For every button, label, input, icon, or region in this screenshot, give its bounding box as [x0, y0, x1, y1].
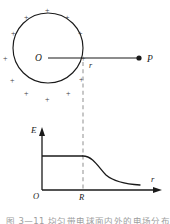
point-label-p: P	[146, 54, 153, 64]
charge-plus-icon: +	[66, 89, 71, 98]
charge-plus-icon: +	[45, 95, 50, 104]
charge-plus-icon: +	[11, 29, 16, 38]
charge-plus-icon: +	[45, 6, 50, 15]
figure-caption-clipped: 图 3—11 均匀带电球面内外的电场分布	[0, 217, 170, 224]
point-p-marker	[136, 55, 141, 60]
x-axis-arrowhead	[153, 187, 162, 193]
figure-caption-text: 图 3—11 均匀带电球面内外的电场分布	[6, 217, 170, 224]
charged-sphere-outline	[13, 13, 83, 83]
surface-charge-symbols: + + + + + + + + + + + +	[3, 6, 86, 104]
graph-origin-label-o: O	[33, 191, 39, 201]
charge-plus-icon: +	[3, 54, 8, 63]
sphere-diagram: O r P + + + + + + + + + + + +	[3, 6, 153, 104]
charge-plus-icon: +	[78, 29, 83, 38]
field-graph: E r O R	[30, 125, 162, 202]
center-label-o: O	[35, 53, 42, 63]
y-axis-arrowhead	[39, 127, 45, 136]
y-axis-label-e: E	[30, 125, 37, 135]
physics-figure: O r P + + + + + + + + + + + +	[0, 0, 170, 224]
radius-label-r: r	[89, 61, 93, 70]
charge-plus-icon: +	[24, 13, 29, 22]
x-axis-label-r: r	[151, 174, 155, 184]
charge-plus-icon: +	[65, 13, 70, 22]
charge-plus-icon: +	[81, 54, 86, 63]
charge-plus-icon: +	[24, 89, 29, 98]
charge-plus-icon: +	[10, 76, 15, 85]
figure-canvas: O r P + + + + + + + + + + + +	[0, 0, 170, 224]
field-decay-outside-sphere	[83, 156, 140, 185]
x-tick-label-r-capital: R	[78, 192, 85, 202]
